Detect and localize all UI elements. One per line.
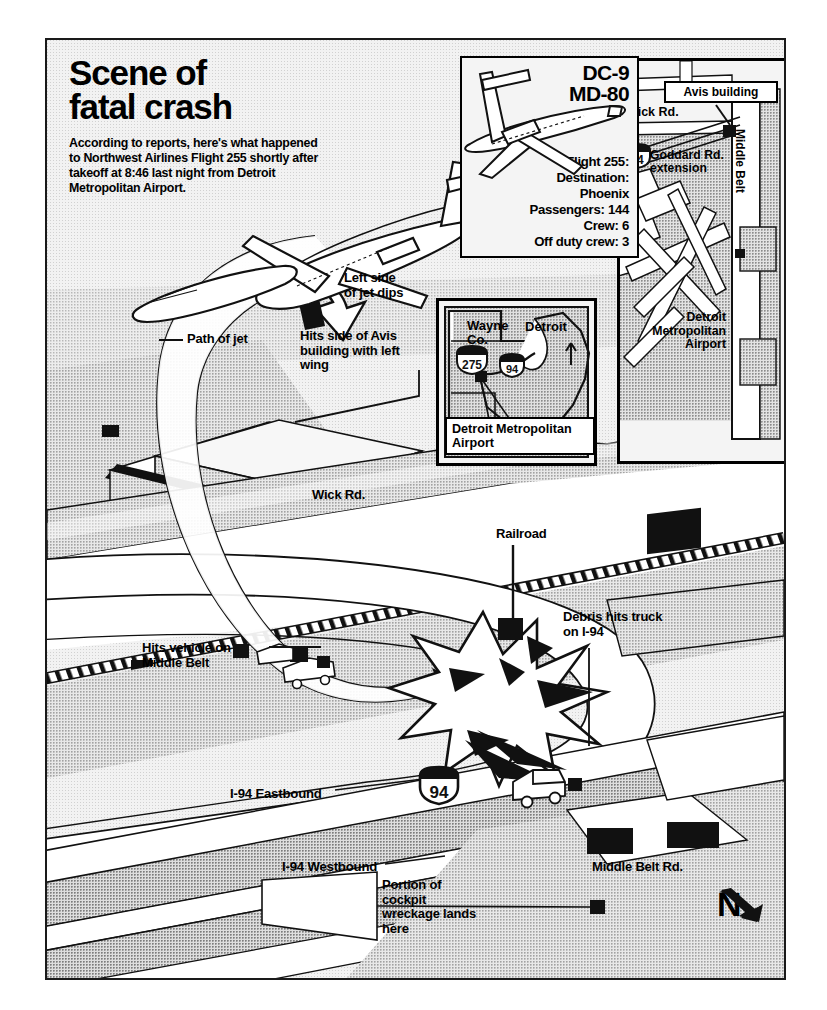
shield-94-inset-icon: 94 [498,353,526,379]
headline-block: Scene of fatal crash According to report… [69,56,324,196]
label-middle-belt-road: Middle Belt Rd. [592,860,683,875]
avis-callout-label: Avis building [684,85,759,99]
aircraft-info-panel: DC-9 MD-80 Flight 255: Destination: Phoe… [460,56,639,258]
headline-line-1: Scene of [69,56,324,90]
label-i94-eastbound: I-94 Eastbound [230,787,322,802]
detroit-metro-airport-label: Detroit Metropolitan Airport [642,311,726,352]
infographic-panel: Avis building Wick Rd. 94 Goddard Rd. ex… [45,38,786,980]
label-hits-avis-building: Hits side of Avis building with left win… [300,329,430,373]
avis-building-callout: Avis building [664,81,778,103]
detroit-label-inset: Detroit [525,319,567,334]
compass-arrow-icon [717,888,773,928]
label-railroad: Railroad [496,527,546,542]
label-left-side-dips: Left side of jet dips [344,271,403,300]
wayne-county-inset-panel: Wayne Co. Detroit 275 94 Detroit Metropo… [436,298,597,466]
svg-text:275: 275 [462,358,482,372]
compass-rose: N [717,890,742,919]
svg-text:94: 94 [506,363,519,375]
middle-belt-label-airport: Middle Belt [733,129,746,193]
truck-icon [513,770,582,808]
label-wick-road-main: Wick Rd. [312,488,365,503]
headline-body-text: According to reports, here's what happen… [69,136,324,197]
svg-text:94: 94 [430,783,449,802]
goddard-road-label: Goddard Rd. extension [650,149,724,175]
detroit-metro-callout: Detroit Metropolitan Airport [445,417,595,455]
label-hits-vehicle: Hits vehicle on Middle Belt [142,641,231,670]
airport-map-svg [620,61,785,461]
label-i94-westbound: I-94 Westbound [282,860,377,875]
shield-275-icon: 275 [455,345,489,375]
airport-map-panel: Avis building Wick Rd. 94 Goddard Rd. ex… [617,58,786,464]
aircraft-illustration-svg [462,58,637,256]
vehicles-middle-belt [233,644,335,689]
label-debris-hits-truck: Debris hits truck on I-94 [563,610,662,639]
label-cockpit-wreckage: Portion of cockpit wreckage lands here [382,878,517,936]
shield-94-main-icon: 94 [417,766,461,806]
wayne-county-label: Wayne Co. [467,319,508,346]
label-path-of-jet: Path of jet [187,332,248,347]
headline-line-2: fatal crash [69,90,324,124]
